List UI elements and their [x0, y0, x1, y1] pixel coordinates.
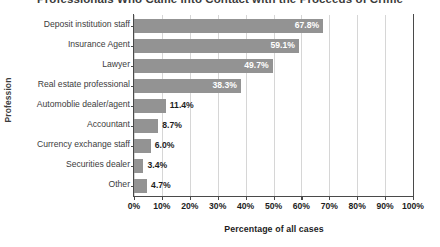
category-label: Other: [0, 179, 130, 189]
bar-row: Securities dealer3.4%: [134, 156, 413, 176]
y-axis-line: [133, 14, 134, 197]
bar[interactable]: [134, 159, 143, 173]
bar-row: Other4.7%: [134, 176, 413, 196]
x-axis-tick: [413, 196, 414, 200]
plot-right-border: [413, 14, 414, 197]
x-axis-tick: [357, 196, 358, 200]
x-axis-tick-label: 100%: [393, 201, 433, 211]
x-axis-title: Percentage of all cases: [134, 224, 414, 234]
bar[interactable]: [134, 119, 158, 133]
x-axis-tick: [190, 196, 191, 200]
x-axis-tick: [385, 196, 386, 200]
x-axis-tick: [246, 196, 247, 200]
chart-title: Professionals Who Came into Contact with…: [0, 0, 440, 5]
category-label: Deposit institution staff: [0, 19, 130, 29]
bar[interactable]: [134, 139, 151, 153]
bar-value-label: 3.4%: [147, 160, 167, 170]
bar-row: Insurance Agent59.1%: [134, 36, 413, 56]
bar-value-label: 4.7%: [151, 180, 171, 190]
x-axis-tick: [301, 196, 302, 200]
category-label: Lawyer: [0, 59, 130, 69]
bar-row: Automoblie dealer/agent11.4%: [134, 96, 413, 116]
category-label: Accountant: [0, 119, 130, 129]
category-label: Insurance Agent: [0, 39, 130, 49]
bar-value-label: 11.4%: [170, 100, 194, 110]
category-label: Automoblie dealer/agent: [0, 99, 130, 109]
bar[interactable]: [134, 99, 166, 113]
bar-row: Lawyer49.7%: [134, 56, 413, 76]
category-label: Real estate professional: [0, 79, 130, 89]
x-axis-tick: [329, 196, 330, 200]
bar-value-label: 67.8%: [134, 20, 319, 30]
bar-row: Real estate professional38.3%: [134, 76, 413, 96]
category-label: Securities dealer: [0, 159, 130, 169]
bar-value-label: 6.0%: [155, 140, 175, 150]
x-axis-tick: [274, 196, 275, 200]
bar-value-label: 8.7%: [162, 120, 182, 130]
bar-row: Accountant8.7%: [134, 116, 413, 136]
x-axis-tick: [162, 196, 163, 200]
bar-value-label: 38.3%: [134, 80, 237, 90]
plot-area: Deposit institution staff67.8%Insurance …: [134, 15, 413, 196]
category-label: Currency exchange staff: [0, 139, 130, 149]
bar-row: Deposit institution staff67.8%: [134, 16, 413, 36]
bar-row: Currency exchange staff6.0%: [134, 136, 413, 156]
bar-value-label: 59.1%: [134, 40, 295, 50]
bar[interactable]: [134, 179, 147, 193]
x-axis-tick: [218, 196, 219, 200]
x-axis-tick: [134, 196, 135, 200]
bar-value-label: 49.7%: [134, 60, 269, 70]
